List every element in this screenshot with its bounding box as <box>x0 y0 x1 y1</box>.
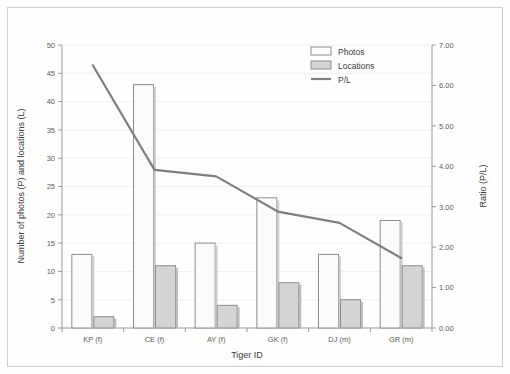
x-axis-title: Tiger ID <box>231 350 263 360</box>
x-axis-category-labels: KP (f)CE (f)AY (f)GK (f)DJ (m)GR (m) <box>83 335 414 344</box>
bar-photos <box>257 198 277 328</box>
legend-swatch-photos <box>311 47 331 55</box>
bar-locations <box>156 266 176 328</box>
y-tick-label-left: 50 <box>47 41 55 50</box>
legend-label: P/L <box>338 75 351 85</box>
x-category-label: GR (m) <box>389 335 414 344</box>
x-category-label: AY (f) <box>207 335 226 344</box>
bar-locations-shadow <box>237 307 240 328</box>
bar-photos <box>72 254 92 328</box>
legend-swatch-locations <box>311 61 331 69</box>
y-tick-label-right: 4.00 <box>439 162 454 171</box>
figure-container: 05101520253035404550 0.001.002.003.004.0… <box>0 0 510 374</box>
bar-photos <box>195 243 215 328</box>
x-category-label: GK (f) <box>268 335 289 344</box>
bar-locations-shadow <box>114 319 117 328</box>
y-tick-label-right: 2.00 <box>439 243 454 252</box>
legend-label: Photos <box>338 47 364 57</box>
y-tick-label-left: 5 <box>51 296 55 305</box>
y-tick-label-left: 15 <box>47 239 55 248</box>
y-tick-label-left: 30 <box>47 154 55 163</box>
y-tick-label-right: 1.00 <box>439 283 454 292</box>
y-axis-left-ticks: 05101520253035404550 <box>47 41 62 333</box>
bar-locations <box>94 317 114 328</box>
y-tick-label-left: 25 <box>47 182 55 191</box>
bar-photos <box>134 85 154 328</box>
bar-locations <box>402 266 422 328</box>
bar-photos <box>380 220 400 328</box>
y-tick-label-right: 3.00 <box>439 203 454 212</box>
bar-locations-shadow <box>361 302 364 328</box>
legend-label: Locations <box>338 61 374 71</box>
y-axis-right-title: Ratio (P/L) <box>478 164 488 207</box>
x-category-label: KP (f) <box>83 335 103 344</box>
x-category-label: DJ (m) <box>328 335 351 344</box>
bar-locations <box>217 305 237 328</box>
y-tick-label-right: 7.00 <box>439 41 454 50</box>
y-tick-label-left: 0 <box>51 324 55 333</box>
y-axis-right-ticks: 0.001.002.003.004.005.006.007.00 <box>432 41 454 333</box>
y-tick-label-left: 45 <box>47 69 55 78</box>
y-tick-label-right: 5.00 <box>439 122 454 131</box>
y-tick-label-left: 35 <box>47 126 55 135</box>
x-axis-ticks <box>62 328 432 332</box>
x-category-label: CE (f) <box>145 335 165 344</box>
bar-locations-shadow <box>422 268 425 328</box>
bar-locations <box>279 283 299 328</box>
y-axis-left-title: Number of photos (P) and locations (L) <box>16 108 26 263</box>
y-tick-label-left: 10 <box>47 267 55 276</box>
y-tick-label-right: 6.00 <box>439 81 454 90</box>
bar-photos <box>319 254 339 328</box>
y-tick-label-right: 0.00 <box>439 324 454 333</box>
y-tick-label-left: 40 <box>47 97 55 106</box>
bar-locations <box>341 300 361 328</box>
chart-canvas: 05101520253035404550 0.001.002.003.004.0… <box>0 0 510 374</box>
bar-locations-shadow <box>299 285 302 328</box>
bar-locations-shadow <box>176 268 179 328</box>
y-tick-label-left: 20 <box>47 211 55 220</box>
